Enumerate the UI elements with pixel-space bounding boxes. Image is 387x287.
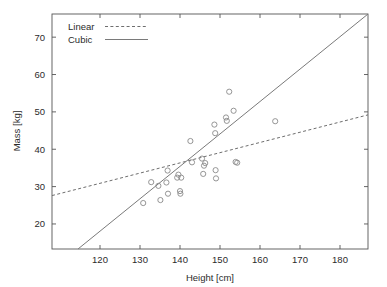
y-tick-label-40: 40 (34, 144, 45, 155)
y-axis-ticks (52, 37, 368, 224)
plot-frame (52, 14, 368, 249)
data-point (213, 176, 218, 181)
x-tick-label-120: 120 (92, 254, 108, 265)
data-point (164, 180, 169, 185)
y-axis-title: Mass [kg] (11, 111, 22, 152)
data-point (224, 118, 229, 123)
data-points-layer (141, 89, 278, 206)
x-tick-label-130: 130 (132, 254, 148, 265)
data-point (158, 197, 163, 202)
x-axis-title: Height [cm] (186, 272, 234, 283)
y-tick-label-60: 60 (34, 69, 45, 80)
legend-label-linear: Linear (68, 21, 94, 32)
x-tick-label-160: 160 (252, 254, 268, 265)
series-layer (52, 14, 368, 249)
data-point (149, 180, 154, 185)
legend: Linear Cubic (68, 21, 148, 45)
fit-line-linear (52, 115, 368, 196)
y-axis-tick-labels: 203040506070 (34, 32, 45, 230)
data-point (141, 200, 146, 205)
x-tick-label-170: 170 (292, 254, 308, 265)
x-tick-label-180: 180 (332, 254, 348, 265)
plot-canvas: 120130140150160170180 203040506070 Heigh… (0, 0, 387, 287)
data-point (165, 191, 170, 196)
data-point (213, 131, 218, 136)
data-point (165, 168, 170, 173)
y-tick-label-50: 50 (34, 106, 45, 117)
y-tick-label-70: 70 (34, 32, 45, 43)
fit-line-cubic (78, 14, 368, 249)
data-point (227, 89, 232, 94)
scatter-plot-figure: 120130140150160170180 203040506070 Heigh… (0, 0, 387, 287)
x-tick-label-150: 150 (212, 254, 228, 265)
data-point (188, 138, 193, 143)
data-point (273, 119, 278, 124)
legend-label-cubic: Cubic (68, 34, 93, 45)
data-point (212, 122, 217, 127)
x-tick-label-140: 140 (172, 254, 188, 265)
x-axis-tick-labels: 120130140150160170180 (92, 254, 348, 265)
y-tick-label-30: 30 (34, 181, 45, 192)
data-point (201, 171, 206, 176)
data-point (231, 108, 236, 113)
data-point (189, 160, 194, 165)
y-tick-label-20: 20 (34, 218, 45, 229)
data-point (213, 168, 218, 173)
